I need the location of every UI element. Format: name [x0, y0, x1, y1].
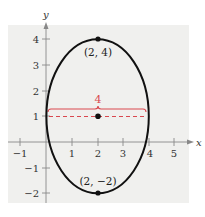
- x-tick-label: 4: [147, 148, 153, 159]
- x-tick-label: 1: [69, 148, 75, 159]
- x-tick-label: 5: [171, 148, 177, 159]
- x-axis-arrow-icon: [187, 140, 194, 145]
- x-axis-label: x: [196, 137, 202, 148]
- y-axis-label: y: [42, 9, 49, 20]
- x-tick-label: −1: [13, 148, 28, 159]
- y-tick-label: −2: [24, 188, 39, 199]
- x-tick-label: 2: [95, 148, 101, 159]
- y-tick-label: −1: [24, 163, 39, 174]
- x-tick-label: 3: [120, 148, 126, 159]
- ellipse-diagram: x −1 1 2 3 4 5 y 4 3 2 1 −1 −2 4: [0, 0, 205, 217]
- width-label: 4: [95, 93, 102, 106]
- bottom-vertex-point: [95, 190, 100, 195]
- center-point: [95, 114, 101, 120]
- y-tick-label: 1: [33, 111, 39, 122]
- bottom-vertex-label: (2, −2): [79, 175, 116, 187]
- y-tick-label: 3: [33, 60, 39, 71]
- top-vertex-point: [95, 36, 100, 41]
- y-tick-label: 4: [33, 34, 39, 45]
- y-tick-label: 2: [33, 86, 39, 97]
- top-vertex-label: (2, 4): [84, 46, 112, 58]
